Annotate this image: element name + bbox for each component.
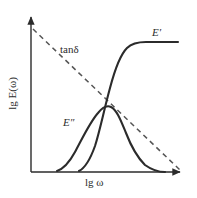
figure-container: tanδ E′ E″ lg ω lg E(ω) bbox=[0, 0, 197, 198]
y-axis-label: lg E(ω) bbox=[7, 68, 18, 120]
chart-plot-area bbox=[0, 0, 197, 198]
x-axis-label: lg ω bbox=[85, 177, 104, 188]
e-prime-label: E′ bbox=[152, 27, 161, 38]
e-double-prime-label: E″ bbox=[63, 117, 74, 128]
e-prime-curve bbox=[79, 42, 178, 171]
tan-delta-label: tanδ bbox=[60, 44, 79, 55]
